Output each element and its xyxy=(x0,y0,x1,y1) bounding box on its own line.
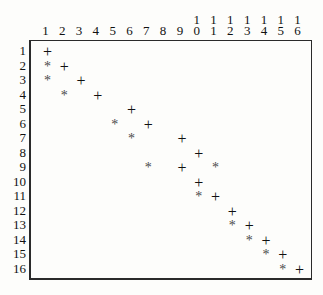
row-label-9: 9 xyxy=(0,160,26,173)
marker-star-r4c2: * xyxy=(57,89,71,103)
marker-star-r9c11: * xyxy=(209,161,223,175)
column-label-digit-low: 3 xyxy=(238,25,256,36)
marker-star-r14c13: * xyxy=(242,234,256,248)
column-label-digit-low: 2 xyxy=(53,25,71,36)
marker-plus-r6c7: + xyxy=(141,118,155,132)
plot-frame: ++++++++++++++++************ xyxy=(29,40,312,280)
column-label-digit-low: 5 xyxy=(272,25,290,36)
marker-plus-r8c10: + xyxy=(192,147,206,161)
column-label-digit-low: 6 xyxy=(289,25,307,36)
marker-star-r7c6: * xyxy=(124,132,138,146)
row-label-3: 3 xyxy=(0,73,26,86)
column-label-digit-low: 4 xyxy=(87,25,105,36)
row-label-7: 7 xyxy=(0,131,26,144)
row-label-2: 2 xyxy=(0,59,26,72)
marker-plus-r11c11: + xyxy=(209,190,223,204)
marker-star-r11c10: * xyxy=(192,190,206,204)
column-label-2: 2 xyxy=(53,14,71,36)
marker-plus-r3c3: + xyxy=(74,74,88,88)
marker-star-r13c12: * xyxy=(225,219,239,233)
column-label-digit-low: 0 xyxy=(188,25,206,36)
column-label-9: 9 xyxy=(171,14,189,36)
column-label-digit-low: 2 xyxy=(221,25,239,36)
marker-plus-r1c1: + xyxy=(40,45,54,59)
column-label-5: 5 xyxy=(104,14,122,36)
column-label-10: 10 xyxy=(188,14,206,36)
column-label-digit-low: 7 xyxy=(137,25,155,36)
column-label-1: 1 xyxy=(36,14,54,36)
marker-plus-r14c14: + xyxy=(259,234,273,248)
column-label-digit-low: 1 xyxy=(205,25,223,36)
scatter-plot: 12345678910111213141516 1234567891011121… xyxy=(0,0,323,295)
row-label-12: 12 xyxy=(0,204,26,217)
marker-star-r9c7: * xyxy=(141,161,155,175)
column-label-13: 13 xyxy=(238,14,256,36)
column-label-digit-low: 3 xyxy=(70,25,88,36)
marker-plus-r13c13: + xyxy=(242,219,256,233)
marker-star-r2c1: * xyxy=(40,60,54,74)
row-label-13: 13 xyxy=(0,218,26,231)
marker-star-r6c5: * xyxy=(108,118,122,132)
row-label-10: 10 xyxy=(0,175,26,188)
column-label-14: 14 xyxy=(255,14,273,36)
column-label-7: 7 xyxy=(137,14,155,36)
row-label-6: 6 xyxy=(0,117,26,130)
marker-plus-r15c15: + xyxy=(276,248,290,262)
marker-plus-r16c16: + xyxy=(293,263,307,277)
column-label-4: 4 xyxy=(87,14,105,36)
column-label-digit-low: 5 xyxy=(104,25,122,36)
marker-star-r15c14: * xyxy=(259,248,273,262)
marker-plus-r4c4: + xyxy=(91,89,105,103)
row-label-11: 11 xyxy=(0,189,26,202)
column-label-12: 12 xyxy=(221,14,239,36)
column-label-digit-low: 1 xyxy=(36,25,54,36)
marker-plus-r12c12: + xyxy=(225,205,239,219)
column-label-16: 16 xyxy=(289,14,307,36)
row-label-15: 15 xyxy=(0,247,26,260)
row-label-14: 14 xyxy=(0,233,26,246)
column-label-3: 3 xyxy=(70,14,88,36)
row-label-5: 5 xyxy=(0,102,26,115)
marker-plus-r7c9: + xyxy=(175,132,189,146)
column-label-11: 11 xyxy=(205,14,223,36)
row-label-1: 1 xyxy=(0,44,26,57)
marker-plus-r10c10: + xyxy=(192,176,206,190)
row-label-4: 4 xyxy=(0,88,26,101)
row-label-8: 8 xyxy=(0,146,26,159)
marker-plus-r9c9: + xyxy=(175,161,189,175)
marker-star-r16c15: * xyxy=(276,263,290,277)
marker-plus-r2c2: + xyxy=(57,60,71,74)
row-label-16: 16 xyxy=(0,262,26,275)
marker-star-r3c1: * xyxy=(40,74,54,88)
column-label-digit-low: 8 xyxy=(154,25,172,36)
column-label-8: 8 xyxy=(154,14,172,36)
column-label-digit-low: 6 xyxy=(120,25,138,36)
marker-plus-r5c6: + xyxy=(124,103,138,117)
column-label-15: 15 xyxy=(272,14,290,36)
column-label-digit-low: 4 xyxy=(255,25,273,36)
column-label-6: 6 xyxy=(120,14,138,36)
column-label-digit-low: 9 xyxy=(171,25,189,36)
